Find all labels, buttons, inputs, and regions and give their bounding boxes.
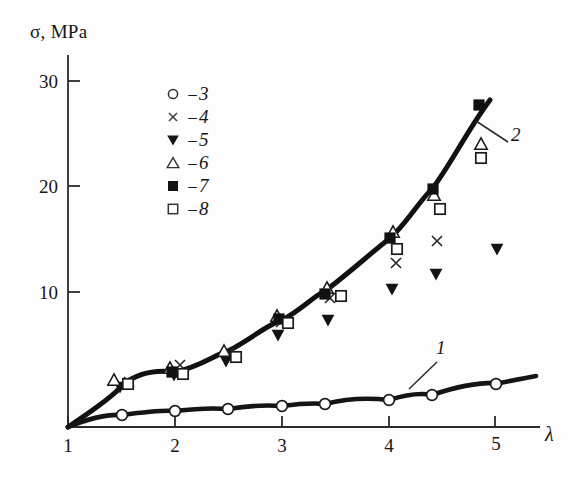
x-axis-title: λ <box>545 424 554 444</box>
y-tick-label-30: 30 <box>18 71 58 93</box>
figure-container: σ, MPa λ 30 20 10 1 2 3 4 5 2 1 – 3 – <box>0 0 580 478</box>
legend-dash-3: – <box>186 84 199 104</box>
legend-dash-8: – <box>186 199 199 219</box>
chart-plot-area <box>0 0 580 478</box>
filled-square-icon <box>160 176 186 196</box>
legend-item-3: – 3 <box>160 82 209 105</box>
legend-item-5: – 5 <box>160 128 209 151</box>
legend-item-6: – 6 <box>160 151 209 174</box>
y-tick-label-20: 20 <box>18 176 58 198</box>
x-tick-label-4: 4 <box>374 435 404 457</box>
y-axis-title: σ, MPa <box>30 22 87 41</box>
legend-dash-6: – <box>186 153 199 173</box>
legend-label-5: 5 <box>199 129 209 151</box>
x-axis-ticks <box>68 416 495 427</box>
curve-2-label: 2 <box>511 124 521 146</box>
open-triangle-up-icon <box>160 153 186 173</box>
legend-item-7: – 7 <box>160 174 209 197</box>
legend-dash-4: – <box>186 107 199 127</box>
cross-icon <box>160 107 186 127</box>
legend-label-6: 6 <box>199 152 209 174</box>
x-tick-label-3: 3 <box>267 435 297 457</box>
curve-1 <box>68 376 536 427</box>
legend-dash-5: – <box>186 130 199 150</box>
legend-label-3: 3 <box>199 83 209 105</box>
series-7-points <box>166 99 484 377</box>
x-tick-label-2: 2 <box>160 435 190 457</box>
legend-item-8: – 8 <box>160 197 209 220</box>
open-square-icon <box>160 199 186 219</box>
curve-1-leader <box>409 362 437 389</box>
series-3-points <box>117 379 502 421</box>
legend-label-4: 4 <box>199 106 209 128</box>
filled-triangle-down-icon <box>160 130 186 150</box>
y-axis-ticks <box>68 81 80 292</box>
legend-item-4: – 4 <box>160 105 209 128</box>
y-tick-label-10: 10 <box>18 282 58 304</box>
curve-1-label: 1 <box>436 337 446 359</box>
legend-label-7: 7 <box>199 175 209 197</box>
x-tick-label-1: 1 <box>53 435 83 457</box>
legend: – 3 – 4 – 5 <box>160 82 209 220</box>
legend-label-8: 8 <box>199 198 209 220</box>
legend-dash-7: – <box>186 176 199 196</box>
x-tick-label-5: 5 <box>481 433 511 455</box>
open-circle-icon <box>160 84 186 104</box>
